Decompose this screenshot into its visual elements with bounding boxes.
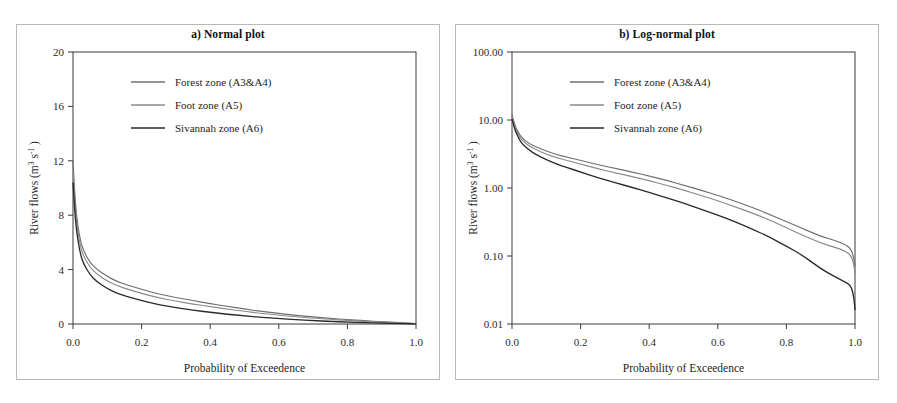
series-line-sav: [73, 183, 416, 324]
x-axis-title: Probability of Exceedence: [184, 362, 305, 375]
y-axis-title: River flows (m3 s-1 ): [27, 141, 41, 235]
svg-text:River flows (m3 s-1 ): River flows (m3 s-1 ): [466, 141, 480, 235]
legend-label-forest: Forest zone (A3&A4): [614, 76, 711, 89]
lognormal-plot-svg: 0.010.101.0010.00100.000.00.20.40.60.81.…: [455, 24, 879, 380]
y-tick-label: 20: [53, 46, 65, 58]
y-tick-label: 100.00: [473, 46, 504, 58]
series-line-foot: [512, 117, 855, 274]
legend-label-foot: Foot zone (A5): [614, 99, 682, 112]
x-tick-label: 0.0: [505, 336, 519, 348]
x-tick-label: 0.6: [272, 336, 286, 348]
plot-frame: [73, 52, 416, 324]
legend-label-savannah: Sivannah zone (A6): [614, 122, 702, 135]
series-line-forest: [73, 161, 416, 324]
x-tick-label: 0.6: [711, 336, 725, 348]
y-tick-label: 10.00: [478, 114, 503, 126]
x-tick-label: 0.2: [574, 336, 588, 348]
y-tick-label: 12: [53, 155, 64, 167]
series-line-sav: [512, 119, 855, 310]
legend-label-savannah: Sivannah zone (A6): [175, 122, 263, 135]
panel-lognormal-plot: b) Log-normal plot 0.010.101.0010.00100.…: [455, 24, 879, 380]
legend-label-forest: Forest zone (A3&A4): [175, 76, 272, 89]
x-tick-label: 0.0: [66, 336, 80, 348]
plot-frame: [512, 52, 855, 324]
x-tick-label: 0.4: [203, 336, 217, 348]
y-tick-label: 1.00: [484, 182, 504, 194]
x-axis-title: Probability of Exceedence: [623, 362, 744, 375]
y-tick-label: 0: [59, 318, 65, 330]
y-tick-label: 8: [59, 209, 65, 221]
legend-label-foot: Foot zone (A5): [175, 99, 243, 112]
x-tick-label: 0.4: [642, 336, 656, 348]
svg-text:River flows (m3 s-1 ): River flows (m3 s-1 ): [27, 141, 41, 235]
x-tick-label: 0.8: [780, 336, 794, 348]
x-tick-label: 1.0: [409, 336, 423, 348]
panel-normal-plot: a) Normal plot 0481216200.00.20.40.60.81…: [16, 24, 440, 380]
y-tick-label: 4: [59, 264, 65, 276]
series-line-foot: [73, 172, 416, 324]
x-tick-label: 0.2: [135, 336, 149, 348]
x-tick-label: 0.8: [341, 336, 355, 348]
x-tick-label: 1.0: [848, 336, 862, 348]
y-tick-label: 0.01: [484, 318, 503, 330]
y-axis-title: River flows (m3 s-1 ): [466, 141, 480, 235]
y-tick-label: 0.10: [484, 250, 504, 262]
normal-plot-svg: 0481216200.00.20.40.60.81.0Probability o…: [16, 24, 440, 380]
figure-container: a) Normal plot 0481216200.00.20.40.60.81…: [0, 0, 897, 403]
y-tick-label: 16: [53, 100, 65, 112]
